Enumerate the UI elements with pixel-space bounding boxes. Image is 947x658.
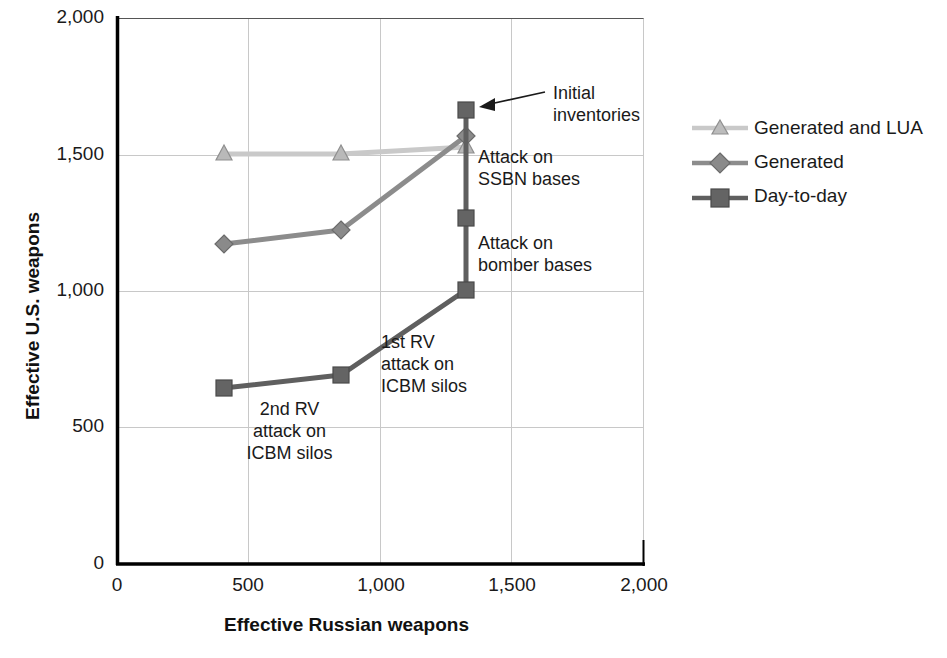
annotation-1st-rv-attack: 1st RV attack on ICBM silos [381,331,467,397]
x-tick-2000: 2,000 [599,574,689,596]
x-tick-1500: 1,500 [467,574,557,596]
x-tick-1000: 1,000 [336,574,426,596]
annotation-attack-ssbn-bases: Attack on SSBN bases [478,146,580,190]
x-tick-0: 0 [77,574,157,596]
legend-label-generated-and-lua: Generated and LUA [754,117,923,139]
series-generated [215,127,475,253]
annotation-attack-bomber-bases: Attack on bomber bases [478,232,592,276]
chart-container: 2,000 1,500 1,000 500 0 0 500 1,000 1,50… [0,0,947,658]
y-axis-title: Effective U.S. weapons [22,212,44,420]
legend-label-day-to-day: Day-to-day [754,185,847,207]
x-axis-title: Effective Russian weapons [224,614,469,636]
y-tick-0: 0 [8,552,104,574]
y-tick-2000: 2,000 [8,6,104,28]
annotation-initial-inventories: Initial inventories [553,82,640,126]
annotation-2nd-rv-attack: 2nd RV attack on ICBM silos [222,398,357,464]
legend-marks [692,120,748,207]
legend-label-generated: Generated [754,151,844,173]
chart-plot-area [0,0,947,658]
x-tick-500: 500 [208,574,288,596]
y-tick-1500: 1,500 [8,143,104,165]
